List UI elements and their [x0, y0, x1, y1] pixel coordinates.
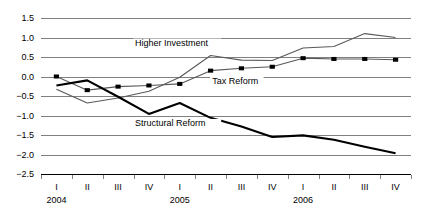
x-year-label: 2006	[293, 195, 313, 205]
series-marker-tax-reform	[270, 65, 275, 69]
x-tick-label: II	[208, 182, 213, 192]
y-axis-tick-labels: 1.51.00.50.0−0.5−1.0−1.5−2.0−2.5	[16, 13, 34, 179]
x-tick-label: III	[238, 182, 246, 192]
x-tick-label: II	[85, 182, 90, 192]
series-marker-tax-reform	[115, 85, 120, 89]
x-axis-year-labels: 200420052006	[46, 195, 313, 205]
series-annotation-higher-investment: Higher Investment	[135, 38, 209, 48]
series-marker-tax-reform	[300, 56, 305, 60]
chart-container: 1.51.00.50.0−0.5−1.0−1.5−2.0−2.5 IIIIIII…	[0, 0, 424, 219]
series-marker-tax-reform	[393, 58, 398, 62]
x-tick-label: I	[178, 182, 181, 192]
y-tick-label: 1.5	[21, 13, 34, 23]
series-marker-tax-reform	[331, 57, 336, 61]
y-tick-label: 1.0	[21, 33, 34, 43]
x-tick-label: III	[361, 182, 369, 192]
gridlines-group	[41, 19, 411, 175]
y-tick-label: −1.0	[16, 111, 34, 121]
y-tick-label: 0.0	[21, 72, 34, 82]
x-tick-label: IV	[145, 182, 154, 192]
x-year-label: 2004	[46, 195, 66, 205]
y-tick-label: −2.0	[16, 150, 34, 160]
x-tick-label: I	[302, 182, 305, 192]
x-axis	[41, 175, 412, 179]
series-marker-tax-reform	[239, 66, 244, 70]
y-tick-label: 0.5	[21, 52, 34, 62]
series-annotation-tax-reform: Tax Reform	[212, 76, 258, 86]
series-annotations-group: Higher InvestmentTax ReformStructural Re…	[133, 38, 264, 129]
series-marker-tax-reform	[362, 57, 367, 61]
x-tick-label: I	[55, 182, 58, 192]
series-marker-tax-reform	[146, 83, 151, 87]
line-chart: 1.51.00.50.0−0.5−1.0−1.5−2.0−2.5 IIIIIII…	[0, 0, 424, 219]
x-axis-tick-labels: IIIIIIIVIIIIIIIVIIIIIIIV	[55, 182, 400, 192]
series-marker-tax-reform	[54, 75, 59, 79]
series-annotation-structural-reform: Structural Reform	[135, 118, 206, 128]
x-year-label: 2005	[170, 195, 190, 205]
series-marker-tax-reform	[85, 88, 90, 92]
x-tick-label: III	[114, 182, 122, 192]
series-line-higher-investment	[56, 34, 395, 103]
series-marker-tax-reform	[177, 82, 182, 86]
x-tick-label: II	[331, 182, 336, 192]
y-tick-label: −0.5	[16, 91, 34, 101]
x-tick-label: IV	[391, 182, 400, 192]
y-tick-label: −2.5	[16, 169, 34, 179]
series-marker-tax-reform	[208, 69, 213, 73]
y-tick-label: −1.5	[16, 130, 34, 140]
x-tick-label: IV	[268, 182, 277, 192]
